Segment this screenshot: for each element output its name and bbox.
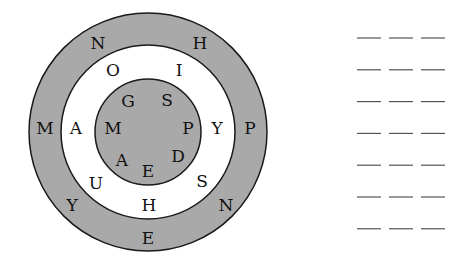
letter-middle-ring: U <box>89 173 103 193</box>
letter-inner-circle: D <box>171 146 185 166</box>
letter-outer-ring: Y <box>65 195 78 215</box>
letter-inner-circle: G <box>121 91 135 111</box>
letter-middle-ring: A <box>69 118 83 138</box>
word-circle-puzzle: NHMPYNEOIAYUSHGSMPAED <box>0 0 467 265</box>
letter-outer-ring: N <box>219 195 234 215</box>
letter-inner-circle: A <box>115 150 129 170</box>
letter-inner-circle: S <box>161 90 173 110</box>
letter-middle-ring: H <box>142 195 157 215</box>
letter-inner-circle: P <box>182 118 193 138</box>
letter-inner-circle: M <box>104 118 121 138</box>
letter-outer-ring: H <box>193 33 208 53</box>
letter-outer-ring: N <box>91 33 106 53</box>
letter-outer-ring: P <box>244 118 255 138</box>
letter-outer-ring: E <box>142 228 154 248</box>
letter-middle-ring: Y <box>210 118 223 138</box>
letter-middle-ring: S <box>196 171 208 191</box>
letter-outer-ring: M <box>36 118 53 138</box>
letter-middle-ring: O <box>106 60 120 80</box>
letter-inner-circle: E <box>142 161 154 181</box>
letter-middle-ring: I <box>176 60 183 80</box>
